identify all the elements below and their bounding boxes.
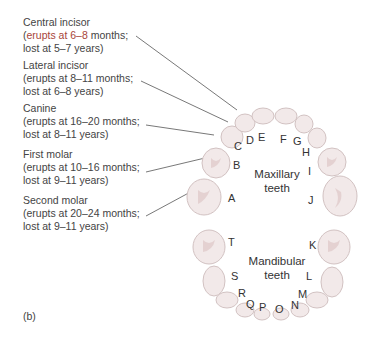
tooth-letter-t: T — [228, 236, 235, 248]
tooth-letter-j: J — [308, 194, 314, 206]
tooth-letter-r: R — [238, 287, 246, 299]
tooth-letter-b: B — [233, 159, 240, 171]
teeth-diagram — [0, 0, 374, 355]
tooth-letter-e: E — [258, 131, 265, 143]
tooth-letter-k: K — [309, 239, 316, 251]
tooth-letter-d: D — [246, 134, 254, 146]
tooth-letter-a: A — [228, 192, 235, 204]
tooth-letter-h: H — [302, 146, 310, 158]
tooth-letter-g: G — [293, 135, 302, 147]
leader-lines — [136, 36, 237, 216]
tooth-letter-c: C — [234, 140, 242, 152]
tooth-letter-f: F — [280, 133, 287, 145]
figure-caption: (b) — [23, 310, 36, 322]
tooth-letter-p: P — [259, 301, 266, 313]
tooth-letter-q: Q — [246, 298, 255, 310]
tooth-letter-i: I — [308, 165, 311, 177]
tooth-letter-o: O — [275, 303, 284, 315]
maxillary-teeth-title: Maxillary teeth — [247, 167, 307, 195]
tooth-letter-s: S — [231, 270, 238, 282]
tooth-letter-m: M — [298, 288, 307, 300]
tooth-letter-n: N — [291, 299, 299, 311]
mandibular-teeth-title: Mandibular teeth — [242, 254, 312, 282]
